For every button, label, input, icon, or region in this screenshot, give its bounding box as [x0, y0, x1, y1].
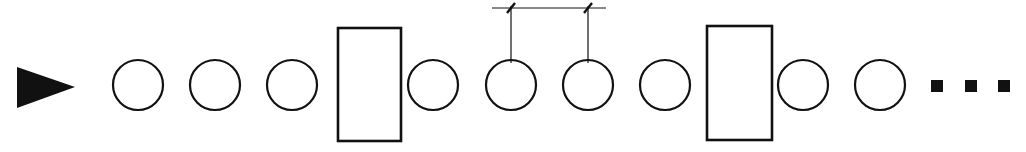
start-arrow-icon [17, 67, 75, 108]
circle-element [640, 60, 690, 110]
dot-square-icon [931, 80, 943, 92]
dot-square-icon [965, 80, 977, 92]
circle-element [267, 60, 317, 110]
continuation-ellipsis-icon [931, 80, 1010, 92]
rectangle-element [707, 26, 772, 140]
circle-element [486, 60, 536, 110]
element-sequence [113, 26, 905, 141]
dot-square-icon [998, 80, 1010, 92]
circle-element [190, 60, 240, 110]
rectangle-element [338, 28, 401, 141]
circle-element [408, 60, 458, 110]
circle-element [113, 60, 163, 110]
circle-element [855, 60, 905, 110]
circle-element [563, 60, 613, 110]
spacing-dimension [492, 3, 606, 63]
circle-element [778, 60, 828, 110]
sequence-diagram [0, 0, 1026, 152]
